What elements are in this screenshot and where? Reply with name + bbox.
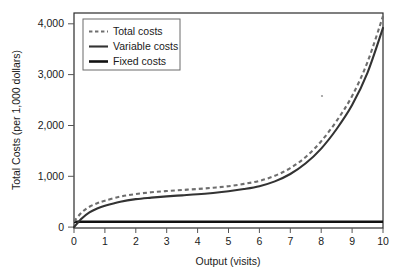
x-tick-label-8: 8: [318, 235, 324, 247]
y-tick-label-1: 1,000: [38, 170, 64, 182]
x-tick-label-4: 4: [195, 235, 201, 247]
y-tick-label-3: 3,000: [38, 68, 64, 80]
legend: Total costs Variable costs Fixed costs: [83, 19, 180, 70]
x-tick-label-5: 5: [226, 235, 232, 247]
x-tick-label-0: 0: [71, 235, 77, 247]
x-tick-label-6: 6: [256, 235, 262, 247]
x-axis-tick-labels: 0 1 2 3 4 5 6 7 8 9 10: [71, 235, 389, 247]
x-axis-ticks: [74, 228, 383, 233]
x-tick-label-9: 9: [349, 235, 355, 247]
x-axis-title: Output (visits): [196, 255, 261, 267]
x-tick-label-2: 2: [133, 235, 139, 247]
y-axis-tick-labels: 0 1,000 2,000 3,000 4,000: [38, 17, 64, 232]
x-tick-label-10: 10: [377, 235, 389, 247]
x-tick-label-7: 7: [287, 235, 293, 247]
scan-artifact-speck: [321, 95, 323, 97]
y-tick-label-4: 4,000: [38, 17, 64, 29]
y-axis-ticks: [68, 24, 74, 227]
x-tick-label-1: 1: [102, 235, 108, 247]
y-axis-title: Total Costs (per 1,000 dollars): [10, 50, 22, 190]
legend-label-variable-costs: Variable costs: [113, 40, 178, 52]
cost-curves-line-chart: 0 1,000 2,000 3,000 4,000 Total Costs (p…: [0, 0, 403, 274]
chart-container: 0 1,000 2,000 3,000 4,000 Total Costs (p…: [0, 0, 403, 274]
x-tick-label-3: 3: [164, 235, 170, 247]
legend-label-fixed-costs: Fixed costs: [113, 55, 166, 67]
y-tick-label-0: 0: [58, 221, 64, 233]
y-tick-label-2: 2,000: [38, 119, 64, 131]
legend-label-total-costs: Total costs: [113, 25, 163, 37]
